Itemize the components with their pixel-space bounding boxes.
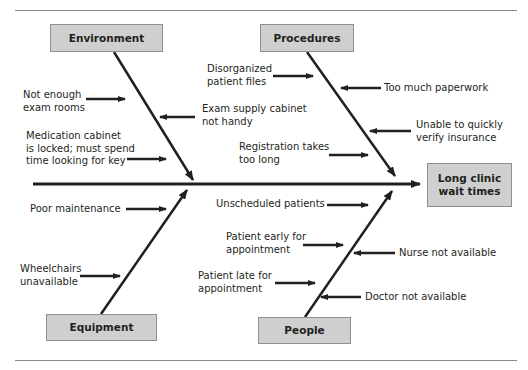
cause-registration: Registration takes too long [239, 141, 329, 166]
effect-box: Long clinic wait times [427, 163, 512, 207]
cause-paperwork: Too much paperwork [384, 82, 488, 95]
cause-verify-insurance: Unable to quickly verify insurance [416, 119, 503, 144]
cause-patient-late: Patient late for appointment [198, 270, 272, 295]
cause-patient-early: Patient early for appointment [226, 231, 306, 256]
cause-wheelchairs: Wheelchairs unavailable [20, 263, 81, 288]
category-environment: Environment [50, 24, 163, 52]
category-people: People [258, 317, 351, 344]
cause-disorganized-files: Disorganized patient files [207, 63, 272, 88]
cause-medication-cabinet: Medication cabinet is locked; must spend… [26, 130, 135, 168]
cause-unscheduled: Unscheduled patients [216, 198, 325, 211]
category-equipment: Equipment [46, 314, 157, 341]
cause-not-enough-rooms: Not enough exam rooms [23, 89, 85, 114]
cause-nurse: Nurse not available [399, 247, 496, 260]
cause-doctor: Doctor not available [365, 291, 466, 304]
category-procedures: Procedures [260, 24, 354, 52]
cause-poor-maintenance: Poor maintenance [30, 203, 121, 216]
cause-exam-supply: Exam supply cabinet not handy [202, 103, 307, 128]
